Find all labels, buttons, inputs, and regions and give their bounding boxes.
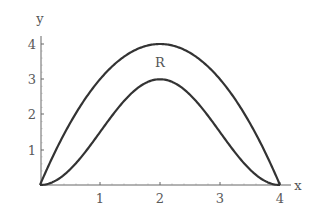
y-axis-label: y xyxy=(35,11,44,26)
y-tick-label-4: 4 xyxy=(28,37,36,52)
region-label: R xyxy=(155,55,166,70)
plot-area: 1 2 3 4 1 2 3 4 y x R xyxy=(0,0,319,208)
y-tick-label-3: 3 xyxy=(28,72,36,87)
x-tick-label-2: 2 xyxy=(156,191,164,206)
x-tick-label-4: 4 xyxy=(276,191,284,206)
chart: 1 2 3 4 1 2 3 4 y x R xyxy=(0,0,319,208)
x-tick-label-3: 3 xyxy=(216,191,224,206)
x-tick-label-1: 1 xyxy=(96,191,104,206)
y-tick-label-2: 2 xyxy=(28,107,36,122)
x-axis-label: x xyxy=(294,178,302,193)
y-tick-label-1: 1 xyxy=(28,143,36,158)
lower-curve xyxy=(40,79,280,185)
